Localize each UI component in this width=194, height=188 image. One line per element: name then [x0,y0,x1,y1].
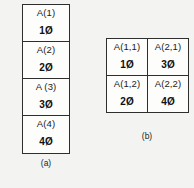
cell-label: A(4) [37,118,55,130]
cell-label: A(1) [37,7,55,19]
cell-value: 3Ø [39,99,52,111]
array-1d-cell: A(4) 4Ø [23,116,69,153]
array-1d-cell: A (3) 3Ø [23,79,69,116]
table-row: A(1,1) 1Ø A(2,1) 3Ø [107,39,189,76]
cell-label: A(2) [37,44,55,56]
cell-value: 4Ø [39,136,52,148]
array-2d-cell: A(1,2) 2Ø [107,76,148,113]
cell-label: A(2,1) [148,41,188,53]
cell-value: 1Ø [39,25,52,37]
array-2d-cell: A(2,1) 3Ø [148,39,189,76]
cell-label: A (3) [36,81,57,93]
array-1d-cell: A(2) 2Ø [23,42,69,79]
cell-value: 2Ø [39,62,52,74]
cell-value: 1Ø [107,59,147,71]
array-1d-table: A(1) 1Ø A(2) 2Ø A (3) 3Ø A(4) 4Ø [22,4,70,154]
cell-label: A(2,2) [148,78,188,90]
panel-a-caption: (a) [22,158,70,168]
array-2d-cell: A(2,2) 4Ø [148,76,189,113]
array-storage-figure: A(1) 1Ø A(2) 2Ø A (3) 3Ø A(4) 4Ø (a) A(1… [0,0,194,188]
panel-a-one-dimensional-array: A(1) 1Ø A(2) 2Ø A (3) 3Ø A(4) 4Ø [22,4,70,154]
cell-value: 4Ø [148,96,188,108]
panel-b-two-dimensional-array: A(1,1) 1Ø A(2,1) 3Ø A(1,2) 2Ø A(2,2) 4Ø [106,38,188,113]
array-1d-cell: A(1) 1Ø [23,5,69,42]
cell-value: 3Ø [148,59,188,71]
panel-b-caption: (b) [106,131,188,141]
table-row: A(1,2) 2Ø A(2,2) 4Ø [107,76,189,113]
array-2d-cell: A(1,1) 1Ø [107,39,148,76]
cell-value: 2Ø [107,96,147,108]
cell-label: A(1,2) [107,78,147,90]
cell-label: A(1,1) [107,41,147,53]
array-2d-table: A(1,1) 1Ø A(2,1) 3Ø A(1,2) 2Ø A(2,2) 4Ø [106,38,189,113]
